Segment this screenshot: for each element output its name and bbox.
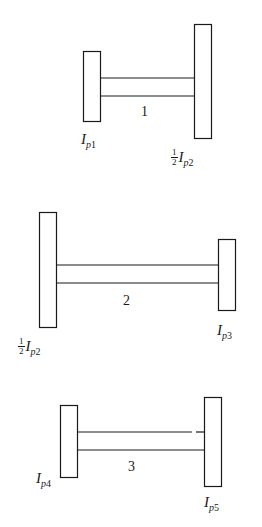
system-2-right-inertia-label: Ip3 — [217, 322, 232, 338]
system-1-right-inertia-label: 12Ip2 — [171, 149, 194, 168]
system-3-shaft-label: 3 — [128, 460, 135, 474]
inertia-subscript: p4 — [41, 478, 51, 489]
system-2 — [40, 213, 236, 328]
half-fraction: 12 — [18, 337, 25, 356]
system-1-left-inertia-label: Ip1 — [81, 131, 96, 147]
system-1-left-disk — [84, 52, 101, 122]
inertia-subscript: p3 — [222, 330, 232, 341]
system-3-right-inertia-label: Ip5 — [204, 494, 219, 510]
system-1 — [84, 25, 212, 139]
inertia-subscript: p1 — [86, 139, 96, 150]
system-3 — [61, 398, 222, 487]
inertia-subscript: p2 — [184, 157, 194, 168]
inertia-subscript: p2 — [31, 346, 41, 357]
system-2-left-disk — [40, 213, 57, 328]
system-2-right-disk — [219, 240, 236, 311]
system-3-left-disk — [61, 406, 78, 478]
system-1-shaft-label: 1 — [141, 105, 148, 119]
system-1-right-disk — [195, 25, 212, 139]
system-2-left-inertia-label: 12Ip2 — [18, 338, 41, 357]
system-3-right-disk — [205, 398, 222, 487]
half-fraction: 12 — [171, 148, 178, 167]
system-3-left-inertia-label: Ip4 — [36, 470, 51, 486]
inertia-subscript: p5 — [209, 502, 219, 513]
diagram-canvas: 1 Ip1 12Ip2 2 12Ip2 Ip3 3 Ip4 Ip5 — [0, 0, 262, 527]
diagram-svg — [0, 0, 262, 527]
system-2-shaft-label: 2 — [123, 294, 130, 308]
